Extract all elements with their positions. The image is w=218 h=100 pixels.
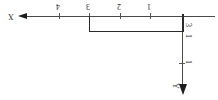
x-tick-label-4: 4 bbox=[56, 2, 60, 10]
step-left-edge bbox=[89, 16, 90, 32]
x-tick-mark bbox=[120, 13, 121, 19]
x-tick-mark bbox=[59, 13, 60, 19]
x-tick-label-3: 3 bbox=[86, 2, 90, 10]
x-tick-label-2: 2 bbox=[117, 2, 121, 10]
engineering-diagram: X 4 3 2 1 Y 3 1 1 bbox=[0, 0, 218, 100]
x-tick-mark bbox=[150, 13, 151, 19]
origin-label-3: 3 bbox=[184, 23, 192, 27]
y-axis-label: Y bbox=[171, 83, 179, 89]
y-tick-label-1: 1 bbox=[184, 60, 192, 64]
step-bottom-edge bbox=[89, 31, 182, 32]
arrow-left-icon bbox=[18, 13, 27, 19]
x-tick-label-1: 1 bbox=[147, 2, 151, 10]
origin-label-1: 1 bbox=[184, 34, 192, 38]
x-axis-label: X bbox=[8, 12, 14, 20]
arrow-down-icon bbox=[179, 84, 187, 95]
